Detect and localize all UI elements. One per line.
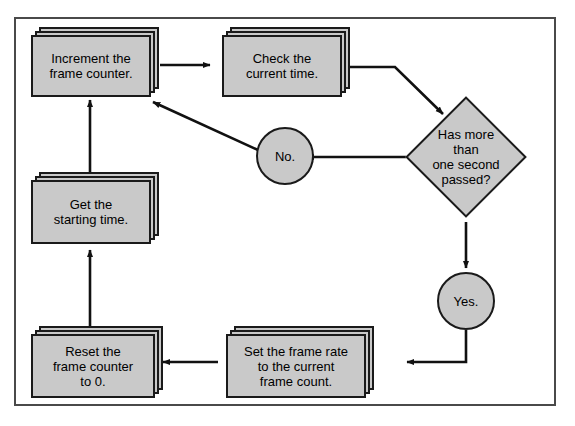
node-connector-no[interactable]: No.: [256, 127, 314, 185]
node-label: Yes.: [437, 272, 495, 330]
node-label: Increment the frame counter.: [31, 35, 151, 97]
node-decision-one-second-passed[interactable]: Has more than one second passed?: [423, 114, 509, 200]
node-connector-yes[interactable]: Yes.: [437, 272, 495, 330]
node-label: Set the frame rate to the current frame …: [226, 334, 366, 398]
node-check-current-time[interactable]: Check the current time.: [222, 27, 350, 97]
node-reset-frame-counter[interactable]: Reset the frame counter to 0.: [31, 326, 163, 398]
node-label: Get the starting time.: [31, 180, 151, 244]
node-label: Reset the frame counter to 0.: [31, 334, 155, 398]
flowchart-canvas: Increment the frame counter. Check the c…: [0, 0, 575, 426]
node-label: Check the current time.: [222, 35, 342, 97]
edge-no-to-increment: [153, 102, 258, 150]
edge-yes-to-setrate: [407, 330, 466, 362]
node-label: No.: [256, 127, 314, 185]
node-get-starting-time[interactable]: Get the starting time.: [31, 172, 159, 244]
node-label: Has more than one second passed?: [399, 106, 533, 208]
node-increment-frame-counter[interactable]: Increment the frame counter.: [31, 27, 159, 97]
node-set-frame-rate[interactable]: Set the frame rate to the current frame …: [226, 326, 374, 398]
